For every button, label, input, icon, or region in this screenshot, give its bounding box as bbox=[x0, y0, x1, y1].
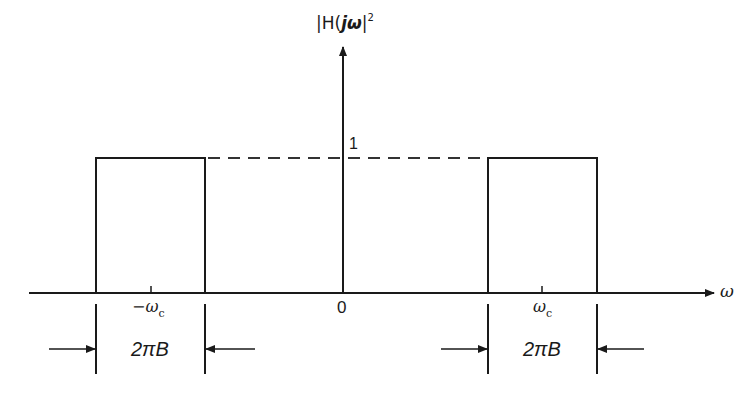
right-passband bbox=[488, 158, 597, 293]
pos-center-sub: c bbox=[546, 307, 552, 320]
y-axis-label-suffix: | bbox=[362, 13, 368, 33]
y-axis-label-exponent: 2 bbox=[368, 12, 374, 23]
neg-center-sub: c bbox=[158, 307, 164, 320]
left-passband bbox=[96, 158, 205, 293]
unity-level-label: 1 bbox=[349, 136, 358, 152]
pos-center-omega: ω bbox=[533, 297, 546, 316]
bandpass-diagram bbox=[0, 0, 754, 395]
y-axis-label-j: jω bbox=[341, 13, 362, 33]
origin-label: 0 bbox=[337, 299, 346, 316]
left-bandwidth-label: 2πB bbox=[131, 339, 169, 359]
right-bandwidth-label: 2πB bbox=[523, 339, 561, 359]
pos-center-label: ωc bbox=[533, 299, 552, 318]
neg-center-label: −ωc bbox=[132, 299, 165, 318]
y-axis-label: |H(jω|2 bbox=[316, 15, 374, 32]
neg-center-omega: −ω bbox=[132, 297, 158, 316]
y-axis-label-prefix: |H( bbox=[316, 13, 341, 33]
x-axis-label: ω bbox=[720, 283, 734, 300]
